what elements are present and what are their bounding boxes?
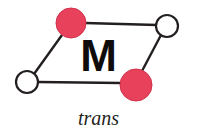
metal-center-label: M [0,36,199,76]
isomer-caption: trans [0,106,199,130]
bond-top-edge [85,23,157,25]
chemical-structure-figure: M trans [0,0,201,135]
bond-bottom-edge [38,82,121,83]
ligand-top-right-open-circle [156,15,178,37]
